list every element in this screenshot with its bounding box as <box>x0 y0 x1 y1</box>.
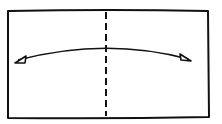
fold-diagram <box>0 0 222 124</box>
diagram-svg <box>0 0 222 124</box>
paper-rectangle <box>8 10 209 118</box>
